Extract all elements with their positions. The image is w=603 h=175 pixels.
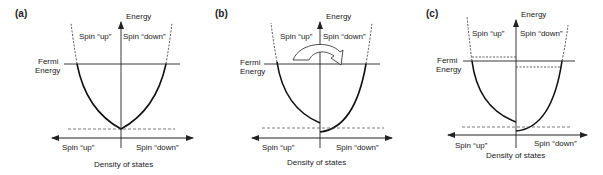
dos-axis-label: Density of states — [287, 158, 346, 167]
spin-up-top-label: Spin “up” — [280, 32, 313, 41]
fermi-label-line2: Energy — [436, 65, 461, 74]
fermi-label-line1: Fermi — [437, 56, 458, 65]
spin-down-top-label: Spin “down” — [323, 32, 366, 41]
spin-up-empty-curve — [271, 23, 277, 62]
energy-axis-label: Energy — [326, 12, 351, 21]
fermi-label-line1: Fermi — [240, 58, 261, 67]
spin-down-top-label: Spin “down” — [123, 32, 166, 41]
spin-down-bottom-label: Spin “down” — [534, 139, 577, 148]
spin-down-empty-curve — [562, 25, 568, 61]
panel-label: (c) — [426, 8, 438, 19]
spin-up-top-label: Spin “up” — [472, 29, 505, 38]
spin-down-band-curve — [320, 64, 366, 132]
band-filled-curve — [77, 64, 166, 129]
panel-c: (c) Energy Fermi Energy Spin “up” Spin “… — [426, 8, 587, 160]
spin-down-top-label: Spin “down” — [520, 29, 563, 38]
spin-up-bottom-label: Spin “up” — [262, 143, 295, 152]
spin-up-band-curve — [472, 61, 516, 122]
electron-transfer-arrow-icon — [293, 44, 343, 65]
spin-up-bottom-label: Spin “up” — [455, 141, 488, 150]
panel-label: (a) — [15, 8, 27, 19]
band-empty-curve-down — [166, 23, 172, 64]
spin-down-bottom-label: Spin “down” — [136, 143, 179, 152]
spin-down-band-curve — [516, 61, 562, 131]
band-empty-curve-up — [71, 23, 77, 64]
panel-a: (a) Energy Fermi Energy Spin “up” Spin “… — [15, 8, 193, 169]
panel-label: (b) — [215, 8, 228, 19]
spin-up-empty-curve — [467, 16, 472, 61]
spin-down-empty-curve — [366, 23, 372, 64]
dos-axis-label: Density of states — [486, 151, 545, 160]
density-of-states-figure: (a) Energy Fermi Energy Spin “up” Spin “… — [0, 0, 603, 175]
spin-up-top-label: Spin “up” — [79, 32, 112, 41]
spin-up-bottom-label: Spin “up” — [62, 143, 95, 152]
spin-down-bottom-label: Spin “down” — [336, 143, 379, 152]
panel-b: (b) Energy Fermi Energy Spin “up” Spin “… — [215, 8, 392, 167]
dos-axis-label: Density of states — [94, 160, 153, 169]
fermi-label-line2: Energy — [35, 66, 60, 75]
fermi-label-line2: Energy — [240, 67, 265, 76]
fermi-label-line1: Fermi — [38, 57, 59, 66]
energy-axis-label: Energy — [126, 12, 151, 21]
energy-axis-label: Energy — [521, 10, 546, 19]
spin-up-band-curve — [277, 62, 320, 123]
